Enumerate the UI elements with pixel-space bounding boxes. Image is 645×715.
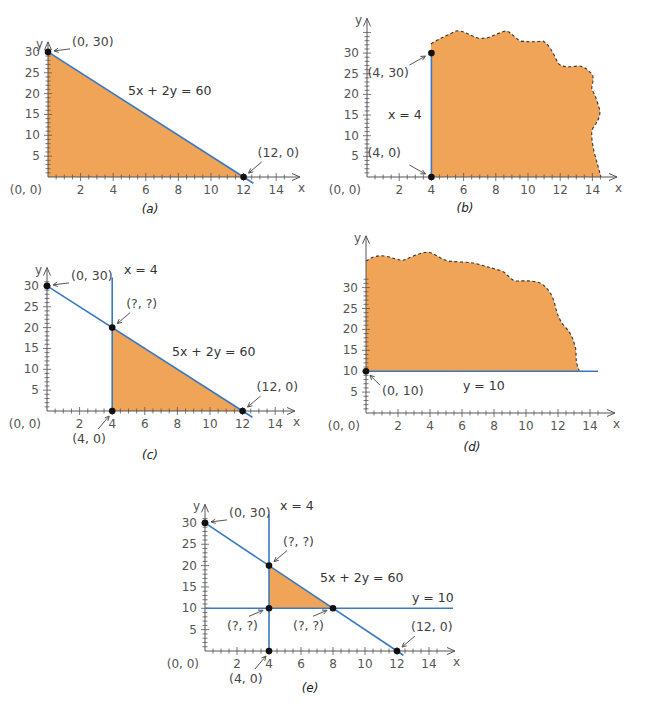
- pointer-arrow-icon: [249, 162, 262, 173]
- point-label: (0, 10): [382, 383, 424, 398]
- x-tick-label: 14: [269, 183, 284, 197]
- point-label: (0, 30): [229, 505, 271, 520]
- x-tick-label: 2: [76, 417, 84, 431]
- corner-point: [44, 283, 51, 290]
- origin-label: (0, 0): [328, 419, 360, 433]
- x-tick-label: 2: [394, 419, 402, 433]
- point-label: (4, 30): [367, 65, 409, 80]
- corner-point: [266, 648, 273, 655]
- feasible-region-figure: 246810121451015202530(0, 0)xy5x + 2y = 6…: [0, 0, 645, 715]
- panel-d: 246810121451015202530(0, 0)xyy = 10(0, 1…: [328, 231, 620, 454]
- x-tick-label: 14: [421, 657, 436, 671]
- y-tick-label: 5: [351, 149, 359, 163]
- y-tick-label: 20: [343, 322, 358, 336]
- y-tick-label: 25: [344, 67, 359, 81]
- equation-label: y = 10: [412, 590, 454, 605]
- y-axis-label: y: [354, 231, 361, 245]
- y-tick-label: 30: [24, 279, 39, 293]
- x-tick-label: 6: [142, 183, 150, 197]
- pointer-arrow-icon: [370, 375, 380, 385]
- y-tick-label: 15: [344, 108, 359, 122]
- x-tick-label: 8: [329, 657, 337, 671]
- equation-label: 5x + 2y = 60: [172, 344, 255, 359]
- x-tick-label: 4: [428, 183, 436, 197]
- x-axis-label: x: [453, 655, 460, 669]
- x-tick-label: 12: [389, 657, 404, 671]
- origin-label: (0, 0): [167, 657, 199, 671]
- corner-point: [428, 174, 435, 181]
- corner-point: [394, 648, 401, 655]
- x-tick-label: 10: [520, 183, 535, 197]
- x-tick-label: 2: [77, 183, 85, 197]
- corner-point: [428, 50, 435, 57]
- x-tick-label: 4: [108, 417, 116, 431]
- x-tick-label: 14: [585, 183, 600, 197]
- x-tick-label: 14: [268, 417, 283, 431]
- x-axis-label: x: [615, 181, 622, 195]
- pointer-arrow-icon: [274, 551, 287, 562]
- corner-point: [363, 368, 370, 375]
- point-label: (4, 0): [72, 431, 106, 446]
- corner-point: [266, 605, 273, 612]
- corner-point: [45, 49, 52, 56]
- y-tick-label: 15: [24, 341, 39, 355]
- point-label: (?, ?): [293, 618, 324, 633]
- corner-point: [239, 408, 246, 415]
- x-tick-label: 4: [109, 183, 117, 197]
- corner-point: [109, 324, 116, 331]
- origin-label: (0, 0): [329, 183, 361, 197]
- corner-point: [202, 520, 209, 527]
- y-tick-label: 10: [25, 128, 40, 142]
- point-label: (0, 30): [71, 268, 113, 283]
- y-tick-label: 20: [25, 87, 40, 101]
- x-tick-label: 4: [426, 419, 434, 433]
- equation-label: 5x + 2y = 60: [320, 570, 403, 585]
- y-tick-label: 20: [182, 559, 197, 573]
- x-axis-label: x: [298, 181, 305, 195]
- y-tick-label: 20: [344, 87, 359, 101]
- feasible-region: [366, 252, 579, 372]
- x-axis-label: x: [293, 415, 300, 429]
- pointer-arrow-icon: [409, 165, 425, 174]
- x-tick-label: 4: [265, 657, 273, 671]
- origin-label: (0, 0): [10, 183, 42, 197]
- panel-caption: (a): [142, 202, 159, 216]
- y-tick-label: 10: [343, 364, 358, 378]
- y-tick-label: 15: [25, 107, 40, 121]
- corner-point: [109, 408, 116, 415]
- corner-point: [330, 605, 337, 612]
- equation-label: y = 10: [463, 378, 505, 393]
- x-tick-label: 8: [175, 183, 183, 197]
- equation-label: x = 4: [124, 262, 158, 277]
- y-tick-label: 15: [343, 343, 358, 357]
- y-tick-label: 25: [182, 537, 197, 551]
- panel-caption: (e): [302, 681, 319, 695]
- equation-label: x = 4: [388, 107, 422, 122]
- x-tick-label: 6: [458, 419, 466, 433]
- y-tick-label: 5: [350, 385, 358, 399]
- point-label: (?, ?): [227, 618, 258, 633]
- y-tick-label: 10: [182, 601, 197, 615]
- x-tick-label: 6: [460, 183, 468, 197]
- y-tick-label: 5: [31, 383, 39, 397]
- equation-label: 5x + 2y = 60: [128, 83, 211, 98]
- panel-b: 246810121451015202530(0, 0)xyx = 4(4, 30…: [329, 13, 622, 215]
- point-label: (12, 0): [411, 619, 453, 634]
- panel-caption: (d): [464, 440, 481, 454]
- x-tick-label: 12: [553, 183, 568, 197]
- y-tick-label: 5: [32, 149, 40, 163]
- y-axis-label: y: [355, 13, 362, 27]
- point-label: (?, ?): [283, 534, 314, 549]
- x-tick-label: 10: [518, 419, 533, 433]
- y-tick-label: 10: [344, 129, 359, 143]
- x-tick-label: 12: [235, 417, 250, 431]
- x-tick-label: 6: [297, 657, 305, 671]
- equation-label: x = 4: [280, 498, 314, 513]
- x-tick-label: 2: [233, 657, 241, 671]
- x-tick-label: 12: [236, 183, 251, 197]
- x-axis-label: x: [613, 417, 620, 431]
- pointer-arrow-icon: [402, 636, 415, 647]
- y-tick-label: 5: [189, 623, 197, 637]
- point-label: (12, 0): [257, 379, 299, 394]
- point-label: (?, ?): [126, 296, 157, 311]
